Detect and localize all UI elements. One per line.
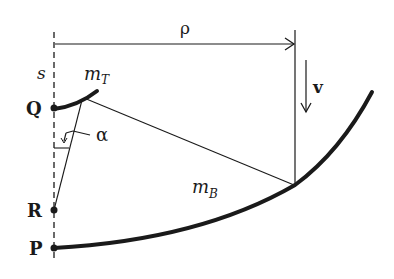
s-label: s bbox=[37, 63, 46, 83]
alpha-label: α bbox=[96, 124, 108, 145]
v-label: v bbox=[312, 77, 324, 97]
mechanics-diagram: ρ v s mT α mB Q R P bbox=[0, 0, 394, 279]
rho-arrow bbox=[55, 38, 294, 50]
point-r bbox=[51, 207, 58, 214]
m-b-label: mB bbox=[192, 176, 218, 201]
point-p bbox=[51, 245, 58, 252]
m-b-curve bbox=[54, 92, 372, 248]
rho-label: ρ bbox=[180, 18, 190, 38]
velocity-arrow bbox=[301, 60, 311, 112]
r-label: R bbox=[27, 200, 43, 221]
m-t-curve bbox=[54, 91, 97, 109]
m-t-label: mT bbox=[84, 63, 110, 87]
point-q bbox=[51, 105, 58, 112]
connecting-line-to-r bbox=[54, 100, 82, 210]
p-label: P bbox=[29, 238, 43, 259]
connecting-line-to-m-b bbox=[84, 98, 294, 185]
q-label: Q bbox=[26, 98, 42, 119]
